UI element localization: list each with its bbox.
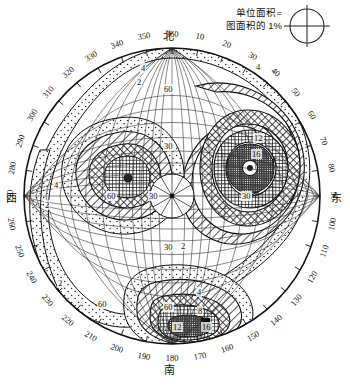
radial-label-60-n: 60	[163, 84, 174, 94]
contour-label-4-w: 4	[53, 180, 59, 190]
contour-label-16-ne: 16	[251, 149, 262, 159]
ne-maximum-point	[247, 165, 253, 171]
contour-label-4-s: 4	[196, 287, 202, 297]
contour-label-2-n: 2	[136, 77, 142, 87]
radial-label-60-s: 60	[163, 302, 174, 312]
radial-label-30-e: 30	[148, 191, 159, 201]
contour-label-16-s: 16	[201, 322, 212, 332]
cardinal-south: 南	[164, 361, 175, 377]
contour-label-12-ne: 12	[253, 133, 264, 143]
cardinal-west: 西	[6, 189, 17, 205]
contour-label-2-sw: 2	[57, 278, 63, 288]
contour-label-4-ne: 4	[255, 62, 261, 72]
contour-label-2-s: 2	[180, 241, 186, 251]
stereonet-figure: 单位面积= 图面积的 1%	[0, 0, 350, 386]
radial-label-30-s: 30	[163, 242, 174, 252]
contour-label-2-w: 2	[44, 200, 50, 210]
contour-label-60-sw: 60	[97, 299, 108, 309]
radial-label-30-w: 30	[241, 191, 252, 201]
contour-label-4-n: 4	[140, 63, 146, 73]
radial-label-60-w: 60	[106, 191, 117, 201]
contour-label-12-s: 12	[172, 322, 183, 332]
cardinal-east: 东	[331, 189, 342, 205]
radial-label-30-n: 30	[163, 141, 174, 151]
contour-label-8-s: 8	[197, 306, 203, 316]
cardinal-north: 北	[163, 27, 174, 43]
